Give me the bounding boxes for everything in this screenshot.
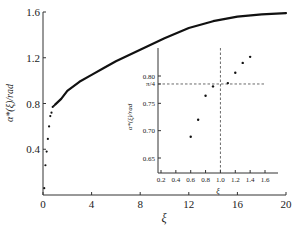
inset-y-tick-label: 0.75 bbox=[143, 100, 156, 108]
inset-data-point bbox=[249, 56, 251, 58]
inset-data-point bbox=[190, 135, 192, 137]
inset-x-tick-label: 0.6 bbox=[186, 176, 195, 184]
main-x-axis-label: ξ bbox=[161, 211, 167, 225]
x-tick-label: 16 bbox=[232, 198, 244, 210]
inset-x-axis-label: ξ bbox=[216, 187, 220, 196]
y-tick-label: 1.2 bbox=[26, 52, 40, 64]
x-tick-label: 20 bbox=[281, 198, 293, 210]
inset-data-point bbox=[197, 119, 199, 121]
inset-x-tick-label: 1.4 bbox=[246, 176, 255, 184]
data-point bbox=[43, 187, 45, 189]
main-scatter-points bbox=[43, 105, 55, 190]
data-point bbox=[46, 150, 48, 152]
x-tick-label: 0 bbox=[40, 198, 46, 210]
data-point bbox=[47, 138, 49, 140]
x-tick-label: 8 bbox=[137, 198, 143, 210]
inset-data-point bbox=[234, 72, 236, 74]
inset-y-tick-label: 0.70 bbox=[143, 127, 156, 135]
inset-data-point bbox=[227, 82, 229, 84]
inset-x-tick-label: 1.6 bbox=[261, 176, 270, 184]
inset-y-tick-label: 0.65 bbox=[143, 155, 156, 163]
main-y-axis-label: α*(ξ)/rad bbox=[4, 83, 16, 122]
inset-x-tick-label: 1.0 bbox=[216, 176, 225, 184]
inset-x-tick-label: 0.2 bbox=[157, 176, 166, 184]
y-tick-label: 0.8 bbox=[26, 98, 40, 110]
data-point bbox=[44, 164, 46, 166]
inset-plot: 0.650.700.75π/40.80 0.20.40.60.81.01.21.… bbox=[126, 48, 278, 196]
y-tick-label: 1.6 bbox=[26, 6, 40, 18]
x-tick-label: 4 bbox=[89, 198, 95, 210]
main-curve bbox=[55, 13, 286, 105]
data-point bbox=[53, 105, 55, 107]
inset-y-axis-label: α*(ξ)/rad bbox=[126, 103, 134, 130]
inset-data-point bbox=[212, 85, 214, 87]
data-point bbox=[48, 125, 50, 127]
chart: 0.40.81.21.6 048121620 α*(ξ)/rad ξ 0.650… bbox=[0, 0, 295, 227]
inset-x-tick-label: 0.8 bbox=[201, 176, 210, 184]
inset-x-ticks: 0.20.40.60.81.01.21.41.6 bbox=[157, 170, 270, 184]
inset-y-tick-label: π/4 bbox=[146, 80, 155, 88]
y-tick-label: 0.4 bbox=[26, 143, 40, 155]
data-point bbox=[49, 115, 51, 117]
inset-y-tick-label: 0.80 bbox=[143, 73, 156, 81]
inset-data-point bbox=[204, 94, 206, 96]
inset-x-tick-label: 0.4 bbox=[171, 176, 180, 184]
inset-x-tick-label: 1.2 bbox=[231, 176, 240, 184]
inset-data-point bbox=[242, 62, 244, 64]
data-point bbox=[50, 112, 52, 114]
main-plot: 0.40.81.21.6 048121620 α*(ξ)/rad ξ bbox=[4, 6, 292, 225]
x-tick-label: 12 bbox=[183, 198, 194, 210]
inset-axes bbox=[158, 48, 278, 173]
